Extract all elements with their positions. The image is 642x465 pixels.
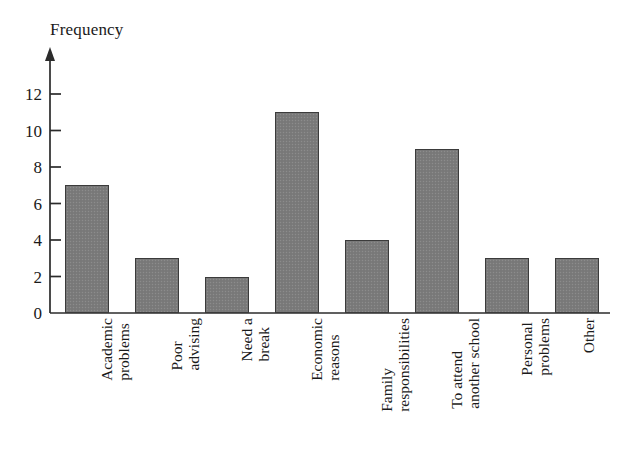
x-axis-category-label: Economicreasons	[308, 318, 342, 381]
bar	[275, 112, 319, 313]
bar	[205, 277, 249, 314]
bar	[345, 240, 389, 313]
x-axis-category-label-line: Academic	[98, 318, 115, 381]
y-tick-label: 2	[34, 268, 43, 285]
x-axis-category-label-line: Poor	[168, 318, 185, 371]
x-axis-category-label-line: advising	[185, 318, 202, 371]
x-axis-category-label: To attendanother school	[448, 318, 482, 409]
x-axis-category-label-line: Need a	[238, 318, 255, 361]
x-axis-category-label: Academicproblems	[98, 318, 132, 381]
x-axis-category-labels: AcademicproblemsPooradvisingNeed abreakE…	[50, 318, 610, 465]
x-axis-category-label-line: responsibilities	[395, 318, 412, 412]
y-axis-arrow-icon	[45, 47, 55, 61]
frequency-bar-chart: Frequency 024681012 AcademicproblemsPoor…	[0, 0, 642, 465]
x-axis-category-label-line: Personal	[518, 318, 535, 376]
y-tick-label: 0	[34, 305, 43, 322]
y-tick-label: 6	[34, 195, 43, 212]
x-axis-category-label-line: Other	[580, 318, 597, 353]
x-axis-category-label-line: Family	[378, 318, 395, 412]
bar	[555, 258, 599, 313]
y-tick-label: 10	[25, 122, 42, 139]
y-axis-tick-labels: 024681012	[0, 0, 42, 465]
y-tick-label: 12	[25, 86, 42, 103]
x-axis-category-label-line: problems	[115, 318, 132, 381]
x-axis-category-label-line: To attend	[448, 318, 465, 409]
bar	[485, 258, 529, 313]
x-axis-category-label-line: Economic	[308, 318, 325, 381]
x-axis-category-label: Need abreak	[238, 318, 272, 361]
x-axis-category-label-line: another school	[465, 318, 482, 409]
x-axis-category-label-line: reasons	[325, 318, 342, 381]
bars-container	[50, 60, 610, 313]
bar	[135, 258, 179, 313]
x-axis-category-label-line: break	[255, 318, 272, 361]
bar	[65, 185, 109, 313]
y-tick-label: 4	[34, 232, 43, 249]
x-axis-category-label: Familyresponsibilities	[378, 318, 412, 412]
x-axis-category-label: Other	[580, 318, 597, 353]
bar	[415, 149, 459, 313]
x-axis-category-label-line: problems	[535, 318, 552, 376]
x-axis-category-label: Pooradvising	[168, 318, 202, 371]
y-tick-label: 8	[34, 159, 43, 176]
x-axis-category-label: Personalproblems	[518, 318, 552, 376]
